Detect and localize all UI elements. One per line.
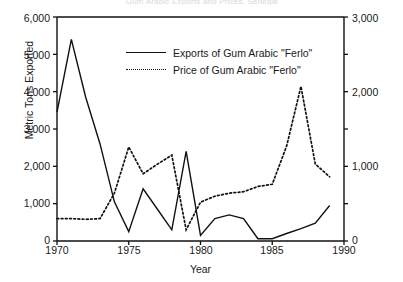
- data-series-lines: [57, 39, 330, 238]
- axis-lines: [53, 17, 348, 245]
- plot-area: [0, 0, 403, 282]
- chart-figure: Gum Arabic Exports and Prices, Senegal M…: [0, 0, 403, 282]
- series-line-price: [57, 86, 330, 229]
